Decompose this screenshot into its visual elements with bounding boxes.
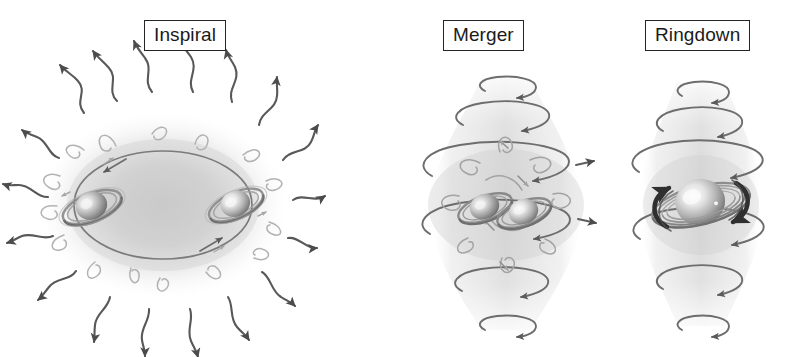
figure-root: Inspiral Merger Ringdown — [0, 0, 788, 357]
panel-ringdown — [615, 0, 788, 357]
phase-label-merger: Merger — [443, 20, 524, 51]
panel-inspiral — [0, 0, 330, 357]
phase-label-inspiral: Inspiral — [144, 20, 226, 51]
inspiral-illustration — [0, 0, 330, 357]
phase-label-ringdown: Ringdown — [645, 20, 750, 51]
merger-illustration — [390, 0, 620, 357]
ringdown-illustration — [615, 0, 788, 357]
panel-merger — [390, 0, 620, 357]
